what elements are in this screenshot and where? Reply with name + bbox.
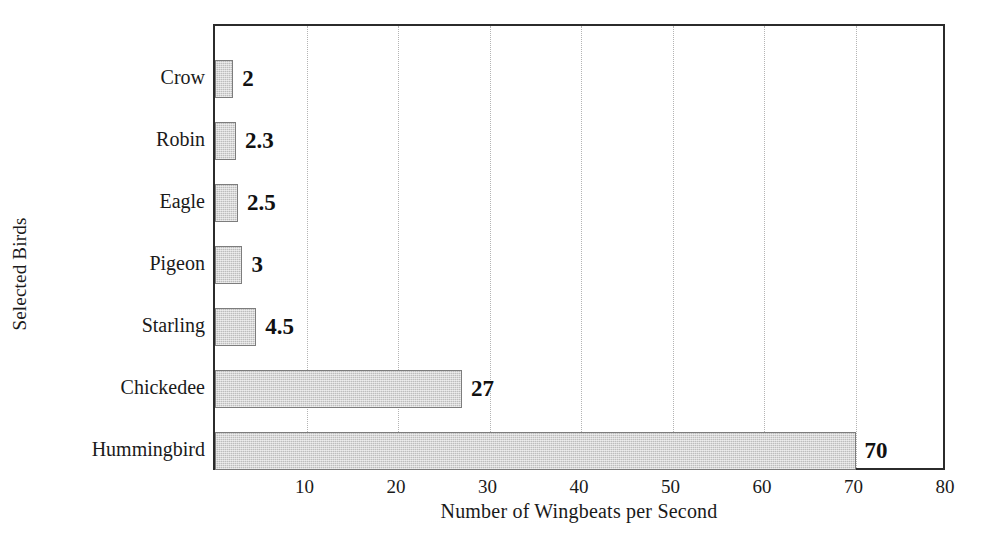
bar-value-label: 70 [856,432,888,470]
bar-value-label: 2.5 [238,184,276,222]
category-label-eagle: Eagle [159,182,205,220]
bar-pigeon [215,246,242,284]
x-tick-40: 40 [549,476,609,498]
category-label-hummingbird: Hummingbird [92,430,205,468]
bar-crow [215,60,233,98]
bar-row: 27 [215,370,947,408]
bar-starling [215,308,256,346]
bar-row: 2.5 [215,184,947,222]
bar-value-label: 27 [462,370,494,408]
bar-value-label: 2.3 [236,122,274,160]
bar-eagle [215,184,238,222]
x-axis-title: Number of Wingbeats per Second [213,500,945,523]
category-label-pigeon: Pigeon [149,244,205,282]
bar-hummingbird [215,432,856,470]
category-label-starling: Starling [142,306,205,344]
x-tick-80: 80 [915,476,975,498]
bar-robin [215,122,236,160]
bars: 22.32.534.52770 [215,26,943,468]
bar-row: 2.3 [215,122,947,160]
bar-chart: Selected Birds CrowRobinEaglePigeonStarl… [0,0,985,548]
category-label-chickedee: Chickedee [121,368,205,406]
x-tick-30: 30 [458,476,518,498]
bar-value-label: 2 [233,60,254,98]
bar-chickedee [215,370,462,408]
bar-row: 4.5 [215,308,947,346]
plot-area: 22.32.534.52770 [213,24,945,470]
category-labels: CrowRobinEaglePigeonStarlingChickedeeHum… [0,24,213,470]
x-tick-70: 70 [824,476,884,498]
x-tick-20: 20 [366,476,426,498]
category-label-crow: Crow [161,58,205,96]
x-tick-10: 10 [275,476,335,498]
bar-row: 2 [215,60,947,98]
bar-value-label: 4.5 [256,308,294,346]
bar-value-label: 3 [242,246,263,284]
x-tick-60: 60 [732,476,792,498]
bar-row: 70 [215,432,947,470]
x-tick-50: 50 [641,476,701,498]
bar-row: 3 [215,246,947,284]
category-label-robin: Robin [156,120,205,158]
